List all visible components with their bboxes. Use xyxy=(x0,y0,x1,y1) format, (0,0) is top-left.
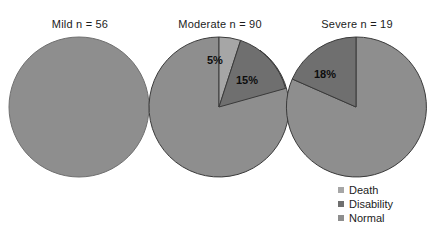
pie-chart-figure: Mild n = 56 Moderate n = 90 5% 15% Sever… xyxy=(0,0,429,232)
pie-mild xyxy=(5,33,153,181)
legend-item-disability: Disability xyxy=(338,197,428,211)
pie-label-moderate-disability: 15% xyxy=(236,74,258,86)
pie-title-severe: Severe n = 19 xyxy=(277,18,429,30)
pie-slice-mild-normal xyxy=(9,37,149,177)
pie-title-mild: Mild n = 56 xyxy=(0,18,160,30)
pie-severe xyxy=(282,33,429,181)
pie-panel-mild: Mild n = 56 xyxy=(0,18,160,178)
legend: Death Disability Normal xyxy=(338,183,428,225)
pie-panel-severe: Severe n = 19 18% xyxy=(277,18,429,178)
legend-swatch-disability-icon xyxy=(338,201,344,207)
legend-item-normal: Normal xyxy=(338,211,428,225)
pie-title-moderate: Moderate n = 90 xyxy=(140,18,300,30)
legend-label-normal: Normal xyxy=(349,211,384,225)
pie-label-severe-disability: 18% xyxy=(314,68,336,80)
legend-swatch-death-icon xyxy=(338,187,344,193)
pie-label-moderate-death: 5% xyxy=(207,54,223,66)
legend-label-disability: Disability xyxy=(349,197,393,211)
legend-item-death: Death xyxy=(338,183,428,197)
pie-panel-moderate: Moderate n = 90 5% 15% xyxy=(140,18,300,178)
legend-swatch-normal-icon xyxy=(338,215,344,221)
legend-label-death: Death xyxy=(349,183,378,197)
